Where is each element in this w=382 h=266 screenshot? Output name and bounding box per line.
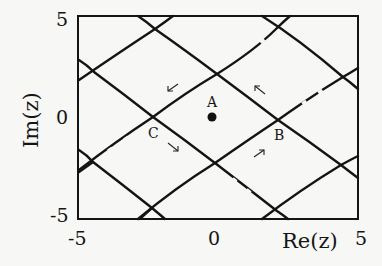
complex-plane-figure: A C B 5 0 -5 -5 0 5 Re(z) Im(z) — [0, 0, 382, 266]
arrow-up-left-icon — [255, 86, 265, 94]
y-tick-mid: 0 — [56, 106, 68, 128]
curve-network — [79, 16, 358, 219]
x-tick-right: 5 — [355, 227, 367, 249]
y-tick-top: 5 — [56, 8, 68, 30]
curve-falling-1 — [79, 60, 288, 219]
label-a: A — [206, 94, 218, 110]
curve-falling-2 — [138, 16, 358, 178]
plot-frame — [78, 16, 358, 219]
x-tick-left: -5 — [68, 227, 87, 249]
arrow-down-left-icon — [168, 84, 178, 91]
point-a-marker — [208, 113, 217, 122]
curve-rising-2 — [79, 16, 290, 170]
arrow-up-right-icon — [254, 150, 264, 157]
curve-rising-bottom-stub — [140, 208, 152, 219]
label-c: C — [148, 125, 159, 141]
arrow-down-right-icon — [168, 143, 178, 151]
x-axis-label: Re(z) — [282, 229, 338, 253]
label-b: B — [274, 127, 284, 143]
x-tick-mid: 0 — [208, 227, 220, 249]
y-axis-label: Im(z) — [19, 92, 43, 148]
y-tick-bottom: -5 — [50, 204, 69, 226]
